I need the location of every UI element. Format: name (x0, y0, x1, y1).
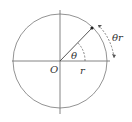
angle-arc (78, 43, 85, 61)
arrow-head-bottom (112, 54, 116, 58)
point-on-circle (90, 26, 93, 29)
arc-length-label: θr (112, 32, 124, 43)
origin-label: O (50, 64, 58, 75)
radius-label: r (80, 65, 86, 76)
circle-diagram: O θ r θr (0, 0, 132, 122)
arrow-head-top (98, 25, 102, 28)
angle-label: θ (71, 50, 77, 61)
